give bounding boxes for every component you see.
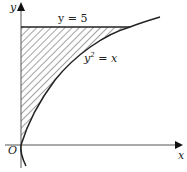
shaded-region: [21, 27, 130, 145]
parabola-label: y2 = x: [84, 52, 117, 64]
graph-canvas: [0, 0, 187, 172]
parabola-label-rest: = x: [95, 52, 117, 65]
x-axis-label: x: [178, 150, 184, 161]
graph-figure: y x O y = 5 y2 = x: [0, 0, 187, 172]
x-axis-arrow-icon: [175, 141, 183, 149]
y-axis-label: y: [10, 2, 16, 13]
line-label: y = 5: [58, 13, 87, 24]
y-axis-arrow-icon: [17, 2, 25, 11]
origin-label: O: [8, 145, 17, 156]
